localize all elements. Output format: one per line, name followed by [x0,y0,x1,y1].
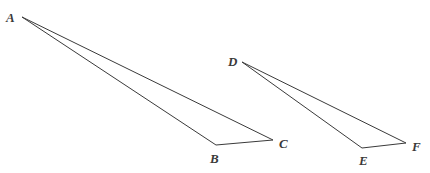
vertex-label-d: D [227,54,238,69]
edge-de [242,62,362,148]
triangle-def: D E F [227,54,421,168]
vertex-label-e: E [358,153,368,168]
edge-ab [22,17,216,145]
edge-fd [242,62,406,143]
vertex-label-c: C [279,136,288,151]
triangle-abc: A B C [5,10,288,166]
vertex-label-b: B [209,151,219,166]
vertex-label-f: F [411,139,421,154]
vertex-label-a: A [5,10,15,25]
edge-ef [362,143,406,148]
edge-ca [22,17,273,140]
triangle-diagram: A B C D E F [0,0,430,173]
edge-bc [216,140,273,145]
